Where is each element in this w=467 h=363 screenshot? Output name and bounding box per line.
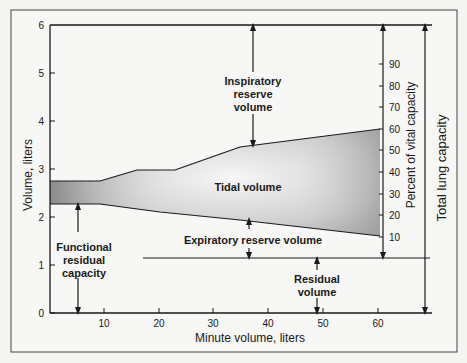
svg-text:0: 0 [38,308,44,319]
residual-volume-label: Residual volume [294,273,340,298]
svg-text:40: 40 [389,167,401,178]
svg-text:5: 5 [38,68,44,79]
x-axis-label: Minute volume, liters [195,331,305,345]
svg-text:70: 70 [389,102,401,113]
svg-text:volume: volume [234,101,273,113]
svg-text:10: 10 [389,232,401,243]
lung-volume-diagram: 0 1 2 3 4 5 6 Volume, liters 10 20 30 40… [0,0,467,363]
svg-text:6: 6 [38,20,44,31]
svg-text:20: 20 [389,210,401,221]
y-axis-label: Volume, liters [21,139,35,211]
svg-text:1: 1 [38,260,44,271]
svg-text:volume: volume [298,286,337,298]
svg-text:2: 2 [38,212,44,223]
svg-text:80: 80 [389,81,401,92]
functional-residual-capacity-label: Functional residual capacity [56,241,112,279]
svg-text:60: 60 [389,124,401,135]
svg-text:30: 30 [207,318,219,329]
svg-text:20: 20 [153,318,165,329]
svg-text:50: 50 [389,145,401,156]
svg-text:60: 60 [372,318,384,329]
svg-text:3: 3 [38,164,44,175]
svg-text:4: 4 [38,116,44,127]
tidal-volume-label: Tidal volume [214,181,281,193]
svg-text:Functional: Functional [56,241,112,253]
svg-text:reserve: reserve [233,88,272,100]
diagram-canvas: 0 1 2 3 4 5 6 Volume, liters 10 20 30 40… [0,0,467,363]
svg-text:residual: residual [63,254,105,266]
svg-text:Residual: Residual [294,273,340,285]
svg-text:90: 90 [389,59,401,70]
svg-text:capacity: capacity [62,267,107,279]
expiratory-reserve-label: Expiratory reserve volume [184,234,322,246]
svg-text:Inspiratory: Inspiratory [225,75,283,87]
svg-text:30: 30 [389,189,401,200]
total-lung-capacity-label: Total lung capacity [434,114,449,221]
svg-text:40: 40 [262,318,274,329]
svg-text:50: 50 [317,318,329,329]
svg-text:10: 10 [98,318,110,329]
percent-vital-capacity-label: Percent of vital capacity [404,82,418,209]
